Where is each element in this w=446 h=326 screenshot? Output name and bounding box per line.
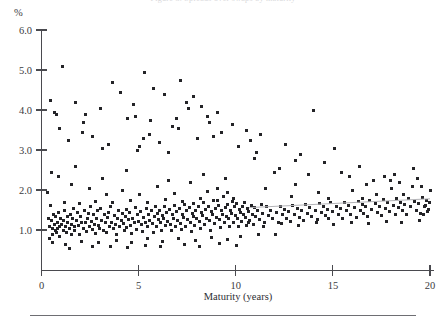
x-tick-label: 15 xyxy=(328,280,339,291)
scatter-point xyxy=(116,217,119,220)
scatter-point xyxy=(193,224,196,227)
scatter-point xyxy=(78,202,81,205)
scatter-point xyxy=(210,236,213,239)
scatter-point xyxy=(91,245,94,248)
scatter-point xyxy=(331,210,334,213)
scatter-point xyxy=(251,213,254,216)
scatter-point xyxy=(247,210,250,213)
y-tick-label: 2.0 xyxy=(19,185,32,196)
scatter-point xyxy=(393,173,396,176)
scatter-point xyxy=(239,211,242,214)
scatter-point xyxy=(192,215,195,218)
scatter-point xyxy=(182,216,185,219)
scatter-point xyxy=(260,203,263,206)
scatter-point xyxy=(230,212,233,215)
scatter-point xyxy=(94,200,97,203)
scatter-point xyxy=(70,183,73,186)
scatter-point xyxy=(197,205,200,208)
scatter-point xyxy=(256,209,259,212)
scatter-point xyxy=(159,245,162,248)
scatter-point xyxy=(178,207,181,210)
scatter-point xyxy=(398,181,401,184)
scatter-point xyxy=(192,202,195,205)
scatter-point xyxy=(349,213,352,216)
scatter-point xyxy=(244,216,247,219)
scatter-point xyxy=(161,214,164,217)
scatter-point xyxy=(263,221,266,224)
scatter-point xyxy=(402,193,405,196)
scatter-point xyxy=(320,211,323,214)
scatter-point xyxy=(375,193,378,196)
scatter-point xyxy=(63,209,66,212)
scatter-point xyxy=(333,147,336,150)
scatter-point xyxy=(67,139,70,142)
scatter-point xyxy=(105,231,108,234)
scatter-point xyxy=(73,225,76,228)
scatter-point xyxy=(97,241,100,244)
scatter-point xyxy=(68,227,71,230)
scatter-point xyxy=(70,223,73,226)
scatter-point xyxy=(48,237,51,240)
scatter-point xyxy=(390,187,393,190)
scatter-point xyxy=(150,209,153,212)
scatter-point xyxy=(298,216,301,219)
scatter-point xyxy=(327,197,330,200)
scatter-point xyxy=(66,215,69,218)
scatter-point xyxy=(185,101,188,104)
y-axis-ticks: 1.02.03.04.05.06.0 xyxy=(19,25,47,236)
scatter-point xyxy=(59,217,62,220)
scatter-point xyxy=(79,215,82,218)
scatter-point xyxy=(257,233,260,236)
scatter-point xyxy=(58,235,61,238)
scatter-point xyxy=(232,221,235,224)
scatter-point xyxy=(216,111,219,114)
scatter-figure: Figure 3. Spreads over swaps by maturity… xyxy=(0,0,446,326)
scatter-point xyxy=(144,244,147,247)
scatter-point xyxy=(183,243,186,246)
scatter-point xyxy=(239,235,242,238)
scatter-point xyxy=(88,225,91,228)
scatter-point xyxy=(345,209,348,212)
scatter-point xyxy=(210,210,213,213)
scatter-point xyxy=(164,198,167,201)
scatter-point xyxy=(322,205,325,208)
y-tick-label: 1.0 xyxy=(19,225,32,236)
scatter-point xyxy=(163,93,166,96)
scatter-point xyxy=(82,121,85,124)
scatter-point xyxy=(166,220,169,223)
scatter-point xyxy=(77,224,80,227)
scatter-point xyxy=(72,207,75,210)
scatter-point xyxy=(267,214,270,217)
scatter-point xyxy=(221,213,224,216)
scatter-point xyxy=(326,208,329,211)
scatter-point xyxy=(420,185,423,188)
scatter-point xyxy=(211,213,214,216)
scatter-point xyxy=(76,211,79,214)
scatter-point xyxy=(335,205,338,208)
scatter-point xyxy=(73,229,76,232)
scatter-point xyxy=(246,207,249,210)
scatter-point xyxy=(60,223,63,226)
scatter-point xyxy=(231,123,234,126)
scatter-point xyxy=(199,227,202,230)
scatter-point xyxy=(80,221,83,224)
scatter-point xyxy=(58,127,61,130)
scatter-point xyxy=(217,204,220,207)
scatter-point xyxy=(113,214,116,217)
scatter-point xyxy=(55,231,58,234)
scatter-point xyxy=(169,223,172,226)
scatter-point xyxy=(83,209,86,212)
scatter-point xyxy=(189,221,192,224)
scatter-point xyxy=(385,220,388,223)
scatter-point xyxy=(146,225,149,228)
scatter-point xyxy=(274,233,277,236)
scatter-point xyxy=(348,175,351,178)
scatter-point xyxy=(141,230,144,233)
scatter-point xyxy=(94,232,97,235)
scatter-point xyxy=(191,212,194,215)
scatter-point xyxy=(64,225,67,228)
scatter-point xyxy=(130,241,133,244)
scatter-point xyxy=(350,221,353,224)
scatter-point xyxy=(168,208,171,211)
scatter-point xyxy=(233,205,236,208)
